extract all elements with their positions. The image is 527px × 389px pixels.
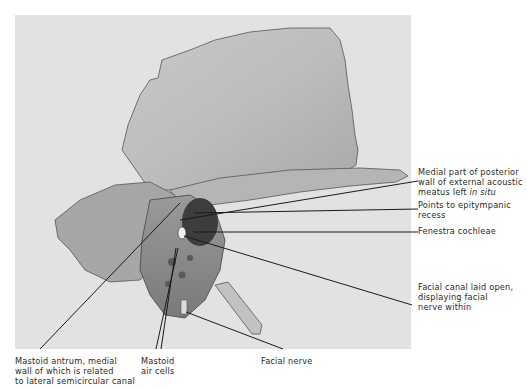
- air-cell: [179, 272, 186, 279]
- tympanic-cavity: [182, 198, 218, 246]
- label-facial-nerve: Facial nerve: [261, 356, 313, 366]
- label-facial-canal: Facial canal laid open, displaying facia…: [418, 282, 513, 312]
- label-mastoid-antrum: Mastoid antrum, medial wall of which is …: [15, 356, 135, 386]
- air-cell: [187, 255, 193, 261]
- label-fenestra-cochleae: Fenestra cochleae: [418, 226, 496, 236]
- label-epitympanic-recess: Points to epitympanic recess: [418, 200, 511, 220]
- fenestra-cochleae-spot: [178, 227, 186, 239]
- label-mastoid-air-cells: Mastoid air cells: [141, 356, 174, 376]
- label-medial-part-posterior-wall: Medial part of posterior wall of externa…: [418, 167, 523, 197]
- squamous-part: [122, 28, 358, 190]
